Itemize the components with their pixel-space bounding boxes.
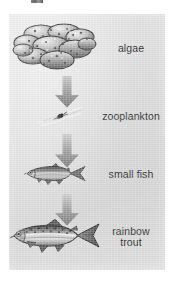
zooplankton-artwork-area [9, 100, 101, 134]
stage-label-small-fish: small fish [101, 169, 165, 181]
cropped-label-artifact [31, 0, 43, 3]
food-chain-stage-algae: algae [9, 18, 165, 80]
food-chain-stage-rainbow-trout: rainbow trout [9, 212, 165, 262]
rainbow-trout-icon [9, 215, 101, 257]
rainbow-trout-artwork-area [9, 212, 101, 262]
food-chain-stage-zooplankton: zooplankton [9, 100, 165, 134]
zooplankton-icon [37, 104, 83, 130]
stage-label-algae: algae [101, 43, 165, 55]
food-chain-stage-small-fish: small fish [9, 156, 165, 194]
stage-label-rainbow-trout: rainbow trout [101, 226, 165, 249]
food-chain-panel: algae [9, 14, 165, 270]
small-fish-artwork-area [9, 156, 101, 194]
algae-artwork-area [9, 18, 101, 80]
stage-label-zooplankton: zooplankton [101, 111, 165, 123]
small-fish-icon [23, 160, 87, 188]
algae-icon [11, 20, 99, 78]
